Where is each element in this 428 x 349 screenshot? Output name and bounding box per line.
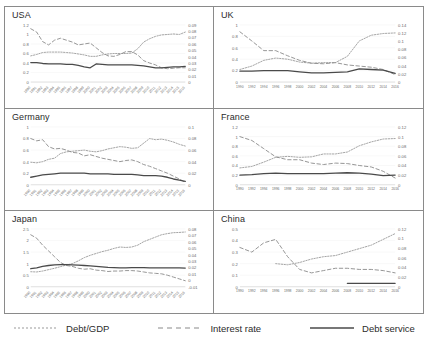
svg-text:0.2: 0.2 (232, 173, 238, 178)
svg-text:0.06: 0.06 (398, 153, 407, 158)
svg-text:1.2: 1.2 (23, 23, 29, 28)
svg-text:0.02: 0.02 (188, 171, 197, 176)
svg-text:0.06: 0.06 (188, 240, 197, 245)
legend-item-debt-service: Debt service (309, 323, 415, 334)
legend-label-interest-rate: Interest rate (210, 323, 261, 334)
legend-item-debt-gdp: Debt/GDP (13, 323, 109, 334)
svg-text:0.1: 0.1 (398, 39, 404, 44)
svg-text:0: 0 (26, 80, 29, 85)
svg-text:2000: 2000 (296, 290, 304, 294)
svg-text:1: 1 (26, 32, 29, 37)
legend-item-interest-rate: Interest rate (157, 323, 261, 334)
svg-text:0.4: 0.4 (232, 239, 238, 244)
svg-text:2000: 2000 (296, 187, 304, 191)
svg-text:2006: 2006 (332, 85, 340, 89)
svg-text:0.3: 0.3 (232, 250, 238, 255)
figure-root: USA 00.20.40.60.811.200.010.020.030.040.… (0, 0, 428, 349)
svg-text:0.06: 0.06 (188, 148, 197, 153)
panel-title-usa: USA (12, 10, 31, 21)
svg-text:0.07: 0.07 (188, 36, 197, 41)
panel-japan: Japan 00.511.522.5-0.0100.010.020.030.04… (4, 211, 214, 314)
svg-text:2016: 2016 (178, 291, 186, 299)
svg-text:1992: 1992 (248, 85, 256, 89)
svg-text:0.8: 0.8 (23, 42, 29, 47)
svg-text:0.1: 0.1 (398, 237, 404, 242)
svg-text:2008: 2008 (344, 290, 352, 294)
svg-text:0.6: 0.6 (23, 51, 29, 56)
svg-text:0.1: 0.1 (398, 134, 404, 139)
svg-text:1: 1 (236, 23, 239, 28)
svg-text:0: 0 (188, 279, 191, 284)
svg-text:0.14: 0.14 (398, 23, 407, 28)
svg-text:0.04: 0.04 (188, 159, 197, 164)
chart-svg-china: 00.10.20.30.40.500.020.040.060.080.10.12… (214, 225, 423, 313)
svg-text:1996: 1996 (272, 290, 280, 294)
chart-svg-france: 00.20.40.60.811.200.020.040.060.080.10.1… (214, 123, 423, 211)
svg-text:-0.01: -0.01 (188, 285, 198, 290)
panel-grid: USA 00.20.40.60.811.200.010.020.030.040.… (4, 6, 424, 314)
svg-text:0.02: 0.02 (398, 275, 407, 280)
svg-text:2016: 2016 (178, 188, 186, 196)
svg-text:2016: 2016 (391, 85, 399, 89)
svg-text:2010: 2010 (356, 187, 364, 191)
svg-text:0.01: 0.01 (188, 272, 197, 277)
panel-france: France 00.20.40.60.811.200.020.040.060.0… (214, 109, 424, 212)
svg-text:0.02: 0.02 (398, 173, 407, 178)
svg-text:1.2: 1.2 (232, 125, 238, 130)
svg-text:0.04: 0.04 (188, 253, 197, 258)
svg-text:2012: 2012 (367, 290, 375, 294)
plot-area-usa: 00.20.40.60.811.200.010.020.030.040.050.… (5, 21, 213, 108)
legend-label-debt-service: Debt service (362, 323, 415, 334)
svg-text:0.04: 0.04 (398, 64, 407, 69)
svg-text:2000: 2000 (296, 85, 304, 89)
svg-text:2012: 2012 (367, 85, 375, 89)
svg-text:0.08: 0.08 (188, 136, 197, 141)
svg-text:0.6: 0.6 (232, 46, 238, 51)
svg-text:0.06: 0.06 (188, 42, 197, 47)
svg-text:0.12: 0.12 (398, 125, 407, 130)
svg-text:0.02: 0.02 (188, 266, 197, 271)
chart-svg-japan: 00.511.522.5-0.0100.010.020.030.040.050.… (5, 225, 213, 313)
svg-text:0.05: 0.05 (188, 246, 197, 251)
svg-text:0.2: 0.2 (232, 262, 238, 267)
svg-text:1: 1 (236, 134, 239, 139)
svg-text:2016: 2016 (391, 187, 399, 191)
svg-text:2.5: 2.5 (23, 227, 29, 232)
svg-text:1.5: 1.5 (23, 250, 29, 255)
svg-text:0.02: 0.02 (188, 67, 197, 72)
svg-text:0.8: 0.8 (232, 144, 238, 149)
svg-text:0.04: 0.04 (398, 163, 407, 168)
svg-text:2014: 2014 (379, 290, 387, 294)
plot-area-china: 00.10.20.30.40.500.020.040.060.080.10.12… (214, 225, 423, 313)
svg-text:0.4: 0.4 (232, 163, 238, 168)
svg-text:0.03: 0.03 (188, 61, 197, 66)
svg-text:0.02: 0.02 (398, 72, 407, 77)
svg-text:2012: 2012 (367, 187, 375, 191)
svg-text:0.08: 0.08 (398, 246, 407, 251)
svg-text:1: 1 (26, 125, 29, 130)
plot-area-japan: 00.511.522.5-0.0100.010.020.030.040.050.… (5, 225, 213, 313)
svg-text:0.6: 0.6 (232, 153, 238, 158)
panel-title-china: China (221, 214, 245, 225)
svg-text:2010: 2010 (356, 85, 364, 89)
panel-title-germany: Germany (12, 112, 50, 123)
panel-usa: USA 00.20.40.60.811.200.010.020.030.040.… (4, 6, 214, 109)
svg-text:0.06: 0.06 (398, 256, 407, 261)
svg-text:2014: 2014 (379, 85, 387, 89)
svg-text:2: 2 (26, 239, 29, 244)
svg-text:0.08: 0.08 (188, 227, 197, 232)
svg-text:1994: 1994 (260, 290, 268, 294)
svg-text:0: 0 (26, 285, 29, 290)
svg-text:1996: 1996 (272, 187, 280, 191)
panel-title-japan: Japan (12, 214, 37, 225)
svg-text:0: 0 (188, 80, 191, 85)
svg-text:1998: 1998 (284, 187, 292, 191)
plot-area-uk: 00.20.40.60.8100.020.040.060.080.10.120.… (214, 21, 423, 108)
svg-text:0: 0 (188, 182, 191, 187)
svg-text:0.04: 0.04 (398, 266, 407, 271)
svg-text:2004: 2004 (320, 290, 328, 294)
chart-svg-uk: 00.20.40.60.8100.020.040.060.080.10.120.… (214, 21, 423, 108)
svg-text:0.01: 0.01 (188, 74, 197, 79)
chart-svg-germany: 00.20.40.60.8100.020.040.060.080.1199019… (5, 123, 213, 211)
svg-text:1990: 1990 (236, 187, 244, 191)
